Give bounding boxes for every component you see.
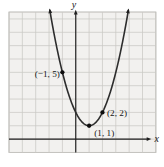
data-point xyxy=(87,124,91,128)
parabola-figure: (−1, 5)(1, 1)(2, 2) y x xyxy=(0,0,164,167)
point-label: (−1, 5) xyxy=(35,69,60,79)
point-label: (1, 1) xyxy=(94,128,114,138)
y-axis-label: y xyxy=(71,0,77,10)
data-point xyxy=(100,110,104,114)
point-label: (2, 2) xyxy=(107,108,127,118)
grid-background xyxy=(9,12,156,152)
parabola-chart: (−1, 5)(1, 1)(2, 2) y x xyxy=(0,0,164,167)
x-axis-label: x xyxy=(154,133,160,144)
grid xyxy=(9,12,156,152)
data-point xyxy=(60,70,64,74)
curve-arrowhead-left xyxy=(48,9,52,14)
curve-arrowhead-right xyxy=(126,9,130,14)
